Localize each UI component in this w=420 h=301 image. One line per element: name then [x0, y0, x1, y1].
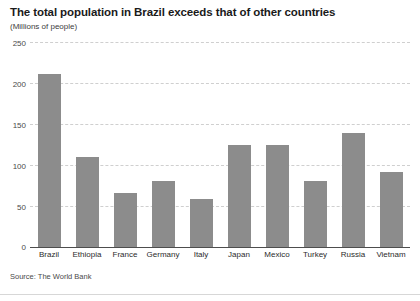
y-axis-tick-label: 100: [13, 162, 26, 171]
plot-area: 050100150200250: [30, 42, 410, 247]
bar-mexico[interactable]: [266, 145, 289, 247]
chart-subtitle-units: (Millions of people): [10, 22, 77, 32]
bar-slot: [372, 42, 410, 247]
x-axis-label-brazil: Brazil: [30, 250, 68, 259]
chart-title: The total population in Brazil exceeds t…: [10, 5, 335, 19]
bar-ethiopia[interactable]: [76, 157, 99, 247]
x-axis-label-germany: Germany: [144, 250, 182, 259]
x-axis-tick-labels: BrazilEthiopiaFranceGermanyItalyJapanMex…: [30, 250, 410, 259]
bar-vietnam[interactable]: [380, 172, 403, 247]
x-axis-label-italy: Italy: [182, 250, 220, 259]
bar-slot: [296, 42, 334, 247]
bar-russia[interactable]: [342, 133, 365, 247]
x-axis-label-mexico: Mexico: [258, 250, 296, 259]
footer-divider: [0, 294, 420, 295]
bar-slot: [106, 42, 144, 247]
chart-figure: The total population in Brazil exceeds t…: [0, 0, 420, 301]
y-axis-tick-label: 50: [17, 203, 26, 212]
x-axis-label-ethiopia: Ethiopia: [68, 250, 106, 259]
x-axis-label-turkey: Turkey: [296, 250, 334, 259]
bar-germany[interactable]: [152, 181, 175, 247]
y-axis-tick-label: 250: [13, 39, 26, 48]
y-axis-tick-label: 200: [13, 80, 26, 89]
y-axis-tick-label: 150: [13, 121, 26, 130]
bar-slot: [220, 42, 258, 247]
bars-group: [30, 42, 410, 247]
bar-slot: [144, 42, 182, 247]
x-axis-label-japan: Japan: [220, 250, 258, 259]
bar-slot: [258, 42, 296, 247]
x-axis-label-france: France: [106, 250, 144, 259]
bar-italy[interactable]: [190, 199, 213, 247]
bar-brazil[interactable]: [38, 74, 61, 247]
bar-slot: [30, 42, 68, 247]
source-note: Source: The World Bank: [10, 272, 91, 281]
bar-slot: [68, 42, 106, 247]
bar-turkey[interactable]: [304, 181, 327, 247]
x-axis-label-vietnam: Vietnam: [372, 250, 410, 259]
bar-france[interactable]: [114, 193, 137, 247]
x-axis-label-russia: Russia: [334, 250, 372, 259]
bar-slot: [182, 42, 220, 247]
x-axis-line: [30, 247, 410, 248]
bar-slot: [334, 42, 372, 247]
bar-japan[interactable]: [228, 145, 251, 247]
y-axis-tick-label: 0: [22, 243, 26, 252]
